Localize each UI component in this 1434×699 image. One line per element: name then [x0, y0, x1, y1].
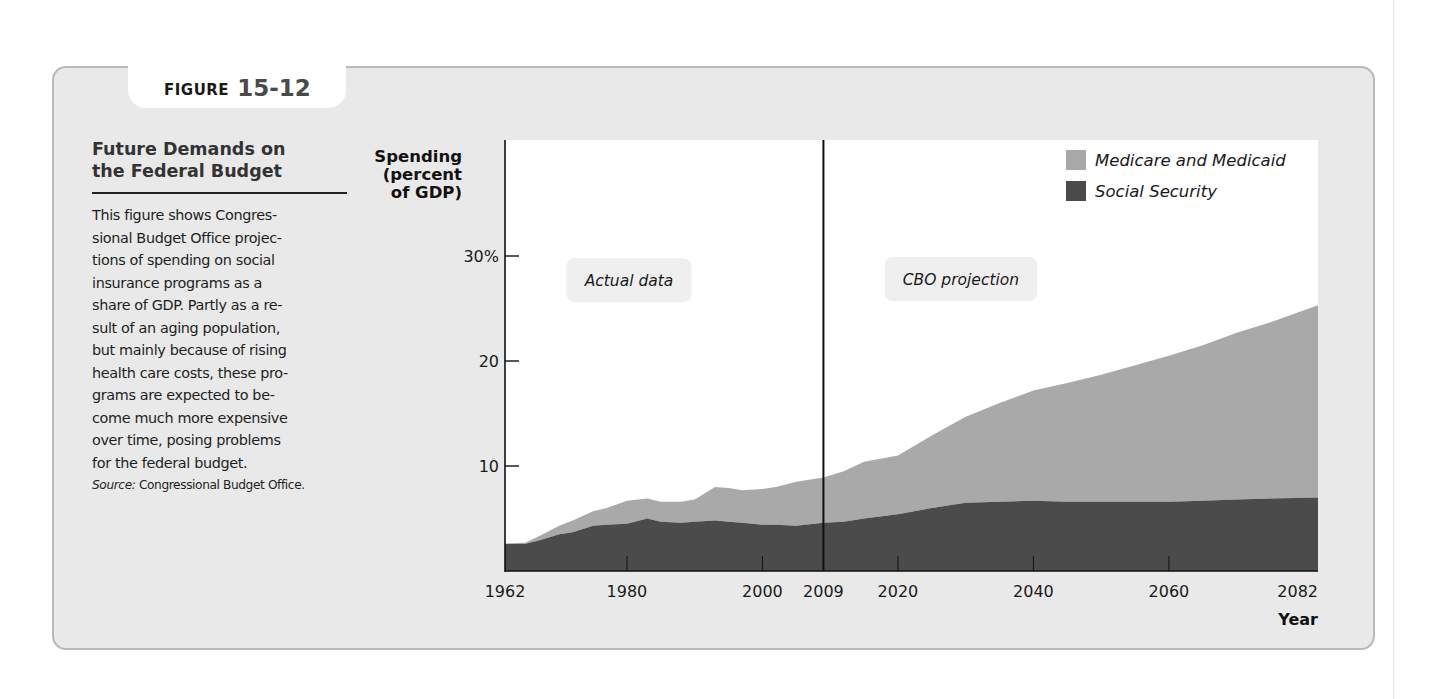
cbo-projection-label: CBO projection — [903, 271, 1019, 289]
y-tick-label: 20 — [479, 352, 499, 371]
x-tick-label: 2020 — [878, 582, 919, 601]
legend-swatch — [1066, 181, 1086, 201]
x-tick-label: 1980 — [607, 582, 648, 601]
x-axis-label: Year — [1277, 610, 1318, 629]
x-tick-label: 2040 — [1013, 582, 1054, 601]
y-tick-label: 30% — [463, 247, 499, 266]
x-tick-label: 2082 — [1277, 582, 1318, 601]
legend-swatch — [1066, 150, 1086, 170]
actual-data-label: Actual data — [584, 272, 674, 290]
legend-item-label: Social Security — [1095, 182, 1217, 201]
legend-item-label: Medicare and Medicaid — [1095, 151, 1286, 170]
x-tick-label: 2060 — [1149, 582, 1190, 601]
x-tick-label: 2000 — [742, 582, 783, 601]
y-tick-label: 10 — [479, 457, 499, 476]
chart: Spending (percent of GDP) 102030%1962198… — [0, 0, 1434, 699]
x-tick-label: 2009 — [803, 582, 844, 601]
x-tick-label: 1962 — [485, 582, 526, 601]
area-chart-plot: 102030%19621980200020092020204020602082Y… — [0, 0, 1434, 699]
